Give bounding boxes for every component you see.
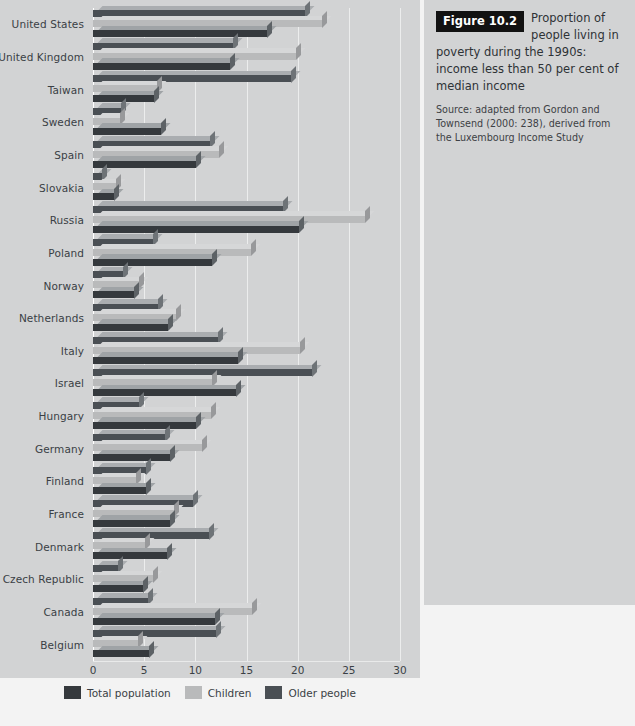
- bar-group: Belgium: [93, 628, 400, 661]
- bar-front-face: [93, 650, 149, 657]
- bar-side-face: [196, 152, 201, 168]
- bar: [93, 291, 134, 298]
- bar-side-face: [139, 272, 144, 288]
- bar-group: Czech Republic: [93, 563, 400, 596]
- bar-side-face: [161, 119, 166, 135]
- y-axis-label: Slovakia: [39, 182, 84, 194]
- bar-front-face: [93, 193, 114, 200]
- bar: [93, 30, 267, 37]
- bar-side-face: [154, 86, 159, 102]
- bar-group: Canada: [93, 596, 400, 629]
- bar-side-face: [209, 523, 214, 539]
- bar: [93, 520, 170, 527]
- bar-front-face: [93, 422, 196, 429]
- x-tick-0: 0: [90, 664, 97, 676]
- bar-side-face: [230, 54, 235, 70]
- legend-item: Total population: [64, 686, 171, 699]
- bar: [93, 63, 230, 70]
- bar-side-face: [299, 217, 304, 233]
- bar: [93, 454, 170, 461]
- figure-caption: Figure 10.2 Proportion of people living …: [436, 10, 626, 145]
- bar: [93, 618, 215, 625]
- figure-page: United StatesUnited KingdomTaiwanSwedenS…: [0, 0, 635, 726]
- bar: [93, 161, 196, 168]
- bar-front-face: [93, 552, 167, 559]
- y-axis-label: Netherlands: [19, 312, 84, 324]
- bar-front-face: [93, 161, 196, 168]
- bar-side-face: [251, 240, 256, 256]
- bar-side-face: [145, 533, 150, 549]
- bar-side-face: [193, 491, 198, 507]
- gridline-30: [400, 8, 401, 661]
- bar-side-face: [216, 621, 221, 637]
- bar-side-face: [365, 207, 370, 223]
- y-axis-label: Russia: [50, 214, 84, 226]
- bar-side-face: [305, 1, 310, 17]
- y-axis-label: United States: [12, 18, 84, 30]
- bar-side-face: [146, 478, 151, 494]
- y-axis-label: France: [48, 508, 84, 520]
- bar-group: United States: [93, 8, 400, 41]
- legend-label: Children: [208, 687, 252, 699]
- bar-side-face: [238, 348, 243, 364]
- bar-group: Germany: [93, 432, 400, 465]
- bar-group: Russia: [93, 204, 400, 237]
- square-swatch-icon: [185, 686, 202, 699]
- bar-front-face: [93, 487, 146, 494]
- bar: [93, 324, 168, 331]
- bar-side-face: [153, 566, 158, 582]
- bar-side-face: [196, 413, 201, 429]
- bar-side-face: [102, 164, 107, 180]
- bar-group: Denmark: [93, 530, 400, 563]
- y-axis-label: Taiwan: [48, 84, 84, 96]
- bar-side-face: [212, 250, 217, 266]
- bar-side-face: [138, 631, 143, 647]
- figure-number-tag: Figure 10.2: [436, 11, 524, 32]
- x-tick-25: 25: [342, 664, 355, 676]
- bar-side-face: [219, 142, 224, 158]
- legend-item: Children: [185, 686, 252, 699]
- bar-side-face: [149, 641, 154, 657]
- bar-front-face: [93, 389, 236, 396]
- bar-front-face: [93, 324, 168, 331]
- bar-chart: United StatesUnited KingdomTaiwanSwedenS…: [93, 8, 400, 661]
- bar-side-face: [146, 458, 151, 474]
- bar-group: Italy: [93, 335, 400, 368]
- y-axis-label: United Kingdom: [0, 51, 84, 63]
- bar-side-face: [296, 44, 301, 60]
- bar-side-face: [170, 445, 175, 461]
- y-axis-label: Israel: [55, 377, 84, 389]
- bar: [93, 357, 238, 364]
- bar-side-face: [167, 543, 172, 559]
- bar-group: Finland: [93, 465, 400, 498]
- bar-front-face: [93, 357, 238, 364]
- bar-group: Poland: [93, 237, 400, 270]
- bar-group: Norway: [93, 269, 400, 302]
- x-tick-5: 5: [141, 664, 148, 676]
- y-axis-label: Germany: [35, 443, 84, 455]
- bar-front-face: [93, 454, 170, 461]
- y-axis-label: Italy: [61, 345, 84, 357]
- x-tick-20: 20: [291, 664, 304, 676]
- bar-side-face: [300, 338, 305, 354]
- bar-side-face: [267, 21, 272, 37]
- bar-front-face: [93, 63, 230, 70]
- bar-side-face: [168, 315, 173, 331]
- bar-side-face: [322, 11, 327, 27]
- bar: [93, 226, 299, 233]
- bar-side-face: [202, 435, 207, 451]
- bar-front-face: [93, 618, 215, 625]
- bar-front-face: [93, 128, 161, 135]
- chart-plot-background: United StatesUnited KingdomTaiwanSwedenS…: [0, 0, 420, 678]
- bar-side-face: [134, 282, 139, 298]
- bar-side-face: [211, 403, 216, 419]
- bar-side-face: [236, 380, 241, 396]
- bar-front-face: [93, 259, 212, 266]
- y-axis-label: Denmark: [35, 541, 84, 553]
- bar: [93, 422, 196, 429]
- square-swatch-icon: [64, 686, 81, 699]
- bar: [93, 585, 143, 592]
- square-swatch-icon: [265, 686, 282, 699]
- y-axis-label: Norway: [44, 280, 84, 292]
- bar: [93, 389, 236, 396]
